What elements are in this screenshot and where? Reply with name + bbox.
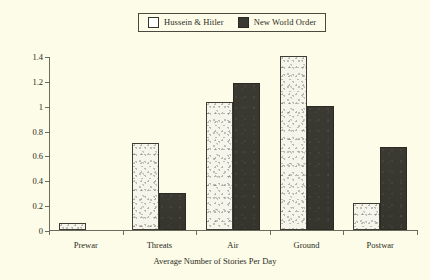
x-tick-mark [123, 230, 124, 235]
legend-entry-new-world-order: New World Order [238, 17, 317, 28]
y-tick-mark [45, 107, 50, 108]
y-axis-line [49, 57, 50, 231]
y-tick-label: 1.4 [32, 52, 43, 62]
y-tick-label: 1.2 [32, 77, 43, 87]
bar-hussein-hitler [132, 143, 159, 230]
chart-legend: Hussein & Hitler New World Order [138, 13, 326, 32]
plot-area: 00.20.40.60.811.21.4 PrewarThreatsAirGro… [49, 57, 417, 231]
y-tick-mark [45, 206, 50, 207]
y-tick-mark [45, 132, 50, 133]
bar-new-world-order [233, 83, 260, 230]
y-tick-mark [45, 156, 50, 157]
x-tick-mark [417, 230, 418, 235]
y-tick-mark [45, 181, 50, 182]
bar-new-world-order [159, 193, 186, 230]
y-tick-label: 0.2 [32, 201, 43, 211]
x-axis-category-label: Air [227, 240, 238, 250]
y-tick-label: 0.8 [32, 127, 43, 137]
x-tick-mark [196, 230, 197, 235]
x-axis-line [49, 230, 417, 231]
y-tick-label: 1 [39, 102, 43, 112]
y-tick-label: 0 [39, 226, 43, 236]
x-tick-mark [270, 230, 271, 235]
y-tick-mark [45, 82, 50, 83]
legend-swatch-icon-light [148, 17, 159, 28]
x-axis-category-label: Threats [147, 240, 173, 250]
y-tick-label: 0.4 [32, 176, 43, 186]
legend-entry-hussein-hitler: Hussein & Hitler [148, 17, 224, 28]
x-tick-mark [49, 230, 50, 235]
legend-label-hussein-hitler: Hussein & Hitler [164, 18, 224, 27]
bar-hussein-hitler [353, 203, 380, 230]
x-tick-mark [343, 230, 344, 235]
bar-new-world-order [380, 147, 407, 230]
y-tick-mark [45, 57, 50, 58]
bar-hussein-hitler [206, 102, 233, 230]
legend-swatch-icon-dark [238, 17, 249, 28]
x-axis-category-label: Ground [294, 240, 320, 250]
x-axis-title: Average Number of Stories Per Day [0, 256, 430, 266]
x-axis-category-label: Prewar [74, 240, 98, 250]
bar-new-world-order [307, 106, 334, 230]
legend-label-new-world-order: New World Order [254, 18, 317, 27]
x-axis-category-label: Postwar [366, 240, 393, 250]
y-tick-label: 0.6 [32, 151, 43, 161]
bar-hussein-hitler [280, 56, 307, 230]
bar-hussein-hitler [59, 223, 86, 230]
